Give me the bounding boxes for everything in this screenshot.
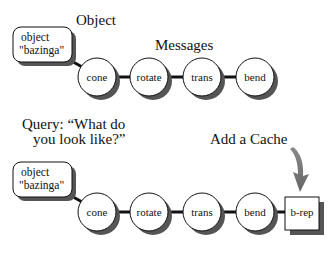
bottom-chain: object "bazinga" cone rotate trans bend …: [13, 147, 324, 235]
svg-text:trans: trans: [191, 206, 212, 218]
svg-text:trans: trans: [191, 71, 212, 83]
object-box-line2: "bazinga": [19, 44, 64, 57]
query-label-line2: you look like?”: [33, 131, 125, 148]
object-label: Object: [76, 12, 116, 29]
node-bend: bend: [236, 58, 278, 100]
svg-text:rotate: rotate: [136, 71, 161, 83]
object-box-line1: object: [21, 166, 50, 179]
object-box-line1: object: [21, 31, 50, 44]
svg-text:cone: cone: [87, 71, 108, 83]
svg-text:bend: bend: [244, 206, 266, 218]
node-trans: trans: [183, 193, 225, 235]
messages-label: Messages: [155, 37, 213, 54]
svg-text:bend: bend: [244, 71, 266, 83]
node-cone: cone: [78, 193, 120, 235]
curved-arrow-icon: [290, 147, 309, 192]
svg-text:cone: cone: [87, 206, 108, 218]
node-bend: bend: [236, 193, 278, 235]
node-b-rep-cache: b-rep: [285, 197, 324, 235]
object-box-line2: "bazinga": [19, 179, 64, 192]
node-trans: trans: [183, 58, 225, 100]
node-cone: cone: [78, 58, 120, 100]
add-cache-label: Add a Cache: [210, 131, 287, 148]
top-chain: object "bazinga" cone rotate trans bend: [13, 27, 278, 100]
svg-text:b-rep: b-rep: [290, 206, 314, 218]
node-rotate: rotate: [130, 193, 172, 235]
svg-text:rotate: rotate: [136, 206, 161, 218]
node-rotate: rotate: [130, 58, 172, 100]
